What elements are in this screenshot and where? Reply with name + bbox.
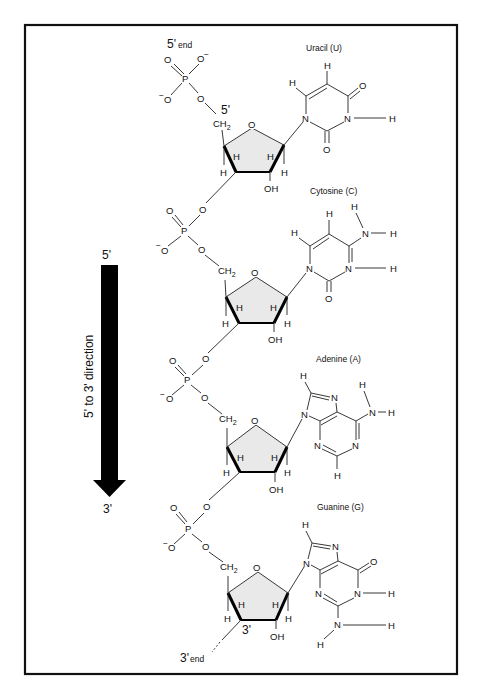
atom-n: N — [352, 440, 359, 451]
atom-p: P — [182, 73, 188, 84]
atom-h: H — [220, 167, 227, 178]
atom-n: N — [301, 409, 308, 420]
atom-h: H — [390, 228, 397, 239]
three-prime-carbon-label: 3' — [242, 623, 251, 637]
atom-p: P — [184, 374, 190, 385]
five-prime-end-label: 5'end — [167, 37, 192, 51]
atom-n: N — [369, 407, 376, 418]
atom-o: O — [164, 54, 171, 65]
atom-oh: OH — [269, 484, 283, 495]
atom-h: H — [388, 407, 395, 418]
atom-o: O — [202, 353, 209, 364]
atom-h: H — [291, 227, 298, 238]
atom-o: O — [359, 80, 366, 91]
atom-h: H — [351, 201, 358, 212]
base-label: Adenine (A) — [316, 354, 361, 364]
atom-h: H — [236, 302, 243, 313]
atom-o: O — [370, 556, 377, 567]
ring-o: O — [251, 267, 258, 278]
atom-n: N — [345, 263, 352, 274]
base-label: Guanine (G) — [317, 502, 364, 512]
atom-oh: OH — [268, 334, 282, 345]
atom-n: N — [354, 588, 361, 599]
atom-n: N — [303, 558, 310, 569]
atom-h: H — [285, 613, 292, 624]
atom-h: H — [233, 151, 240, 162]
atom-o: O — [198, 244, 205, 255]
atom-o: O — [203, 501, 210, 512]
atom-n: N — [332, 541, 339, 552]
atom-n: N — [331, 392, 338, 403]
atom-h: H — [388, 620, 395, 631]
charge: − — [204, 49, 209, 59]
atom-n: N — [344, 113, 351, 124]
atom-o: O — [166, 205, 173, 216]
ring-o: O — [251, 415, 258, 426]
atom-h: H — [289, 77, 296, 88]
atom-o: O — [325, 293, 332, 304]
atom-o: O — [197, 93, 204, 104]
atom-n: N — [314, 440, 321, 451]
atom-h: H — [359, 379, 366, 390]
five-prime-carbon-label: 5' — [221, 103, 230, 117]
atom-h: H — [302, 519, 309, 530]
three-prime-end-label: 3'end — [180, 651, 204, 665]
arrow-shaft — [101, 265, 118, 481]
atom-n: N — [306, 263, 313, 274]
atom-oh: OH — [264, 183, 278, 194]
atom-o: O — [323, 144, 330, 155]
atom-h: H — [388, 588, 395, 599]
atom-o: O — [199, 204, 206, 215]
atom-p: P — [181, 225, 187, 236]
atom-h: H — [272, 599, 279, 610]
atom-h: H — [222, 318, 229, 329]
atom-h: H — [317, 639, 324, 650]
atom-h: H — [271, 452, 278, 463]
atom-o-minus: O — [164, 94, 171, 105]
atom-o: O — [169, 355, 176, 366]
dna-strand-diagram: 5' 3' 5' to 3' direction 5'end O O − P −… — [0, 0, 477, 698]
ring-o: O — [253, 562, 260, 573]
atom-h: H — [267, 151, 274, 162]
arrow-top-label: 5' — [102, 248, 111, 262]
atom-p: P — [185, 523, 191, 534]
atom-o: O — [170, 502, 177, 513]
atom-n: N — [302, 113, 309, 124]
atom-n: N — [315, 588, 322, 599]
ring-o: O — [248, 119, 255, 130]
atom-n: N — [362, 228, 369, 239]
atom-h: H — [390, 263, 397, 274]
atom-h: H — [281, 167, 288, 178]
atom-n: N — [334, 619, 341, 630]
atom-h: H — [300, 370, 307, 381]
arrow-bottom-label: 3' — [103, 502, 112, 516]
atom-h: H — [270, 302, 277, 313]
atom-h: H — [324, 60, 331, 71]
atom-h: H — [224, 613, 231, 624]
atom-o-minus: O — [161, 245, 168, 256]
base-label: Uracil (U) — [306, 43, 342, 53]
atom-o: O — [202, 541, 209, 552]
atom-oh: OH — [270, 631, 284, 642]
atom-h: H — [284, 318, 291, 329]
atom-h: H — [238, 599, 245, 610]
atom-h: H — [223, 467, 230, 478]
atom-h: H — [326, 208, 333, 219]
atom-h: H — [389, 113, 396, 124]
atom-h: H — [237, 452, 244, 463]
atom-h: H — [334, 470, 341, 481]
atom-h: H — [284, 467, 291, 478]
atom-o: O — [201, 392, 208, 403]
arrow-caption: 5' to 3' direction — [82, 335, 96, 418]
charge: − — [160, 389, 165, 399]
base-label: Cytosine (C) — [310, 186, 357, 196]
